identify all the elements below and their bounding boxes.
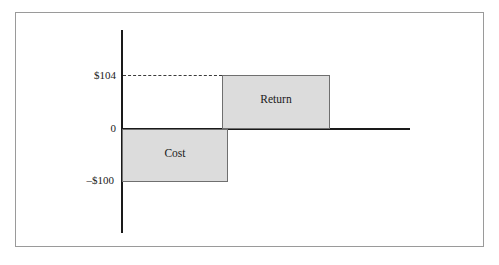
bar-label-cost: Cost [122, 147, 228, 159]
y-axis-tick-label-104: $104 [46, 69, 116, 81]
y-axis-tick-label-zero: 0 [46, 122, 116, 134]
dashed-guide-line [123, 75, 222, 76]
bar-label-return: Return [222, 93, 330, 105]
figure-container: Cost Return $104 0 –$100 [0, 0, 499, 265]
y-axis-tick-label-negative-100: –$100 [44, 174, 114, 186]
